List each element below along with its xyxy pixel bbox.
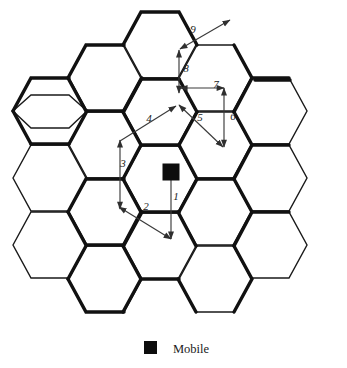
- hex-cell: [68, 112, 142, 178]
- handoff-arrows: [119, 20, 230, 239]
- mobile-marker-icon: [163, 164, 180, 181]
- handoff-arrow-label-1: 1: [173, 190, 179, 202]
- legend: Mobile: [144, 341, 210, 356]
- cluster-boundary-lines: [13, 12, 290, 312]
- cellular-handoff-figure: 123456789 Mobile: [0, 0, 347, 368]
- handoff-arrow-label-7: 7: [213, 78, 219, 90]
- handoff-arrow-label-2: 2: [143, 200, 149, 212]
- hexagon-cell-diagram: 123456789 Mobile: [0, 0, 347, 368]
- legend-square-icon: [144, 341, 157, 354]
- handoff-arrow-label-6: 6: [230, 110, 236, 122]
- hex-cell: [13, 212, 87, 278]
- hex-cell: [233, 78, 307, 144]
- hex-cell: [13, 95, 87, 128]
- handoff-arrow-label-4: 4: [146, 112, 152, 124]
- hex-grid-thin-lines: [13, 12, 307, 312]
- handoff-arrow-label-3: 3: [119, 157, 126, 169]
- hex-cell: [233, 145, 307, 211]
- hex-cell: [13, 145, 87, 211]
- hex-cell: [233, 212, 307, 278]
- handoff-arrow-label-5: 5: [197, 111, 203, 123]
- handoff-arrow-labels: 123456789: [119, 23, 236, 212]
- handoff-arrow-label-9: 9: [190, 23, 196, 35]
- legend-label: Mobile: [173, 342, 210, 356]
- handoff-arrow-label-8: 8: [183, 62, 189, 74]
